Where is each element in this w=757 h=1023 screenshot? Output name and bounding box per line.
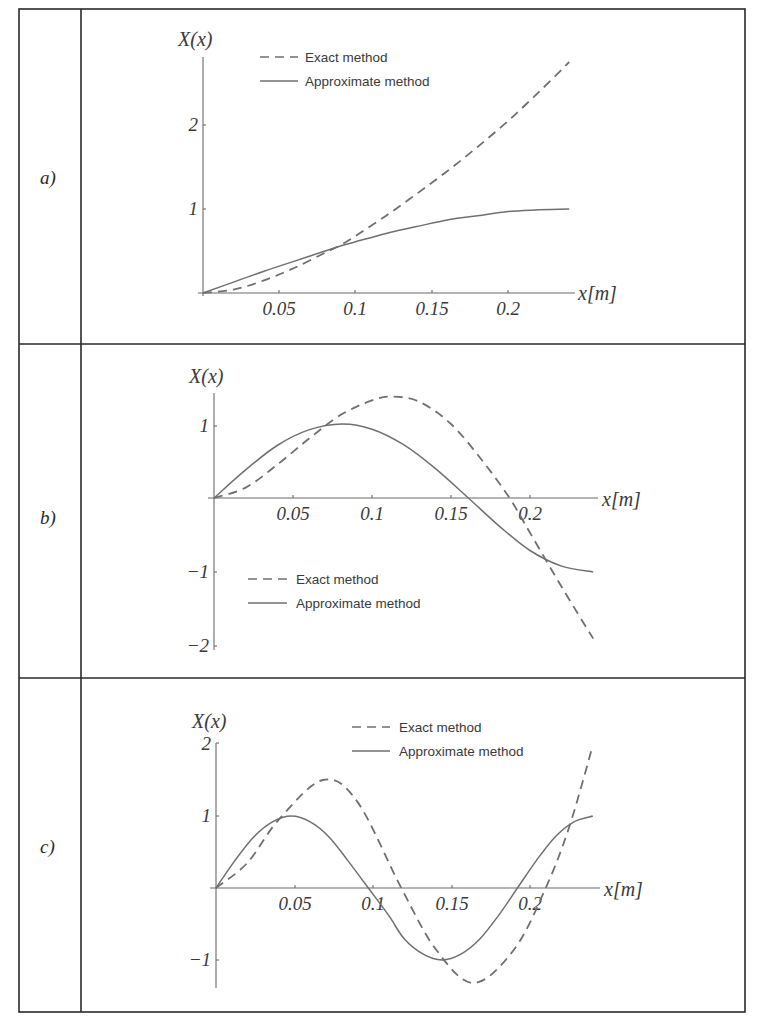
chart-b-x-title: x[m] (601, 488, 641, 510)
chart-c-x-tick-label: 0.2 (518, 893, 542, 914)
chart-b-y-title: X(x) (188, 365, 224, 388)
chart-a-y-tick-label: 2 (189, 114, 199, 135)
row-label-a: a) (40, 167, 56, 189)
chart-c-axes (210, 743, 600, 988)
chart-b-x-tick-label: 0.05 (276, 503, 309, 524)
chart-a-x-tick-label: 0.1 (343, 298, 367, 319)
chart-b-y-tick-label: −2 (187, 635, 210, 656)
legend-approx-label: Approximate method (399, 744, 524, 759)
chart-a-x-title: x[m] (577, 282, 617, 304)
chart-c-x-title: x[m] (603, 878, 643, 900)
chart-a-exact-curve (203, 62, 569, 293)
chart-a-axes (198, 57, 575, 296)
legend-approx-label: Approximate method (296, 596, 421, 611)
figure-table: a) b) c) X(x) x[m] 0.05 0.1 0.15 0.2 1 2… (0, 0, 757, 1023)
chart-a-y-title: X(x) (177, 28, 213, 51)
chart-c-y-title: X(x) (191, 710, 227, 733)
chart-a-x-tick-label: 0.05 (262, 298, 295, 319)
row-label-c: c) (40, 836, 55, 858)
chart-b-y-tick-label: 1 (200, 415, 210, 436)
chart-c-y-tick-label: −1 (189, 949, 211, 970)
chart-a-x-tick-label: 0.15 (415, 298, 448, 319)
chart-c-y-tick-label: 1 (202, 805, 212, 826)
chart-c-x-tick-label: 0.1 (361, 893, 385, 914)
chart-c: X(x) x[m] 0.05 0.1 0.15 0.2 2 1 −1 Exact… (189, 710, 643, 988)
chart-a: X(x) x[m] 0.05 0.1 0.15 0.2 1 2 Exact me… (177, 28, 617, 319)
chart-b-legend: Exact method Approximate method (248, 572, 421, 611)
chart-a-legend: Exact method Approximate method (260, 50, 430, 89)
legend-approx-label: Approximate method (305, 74, 430, 89)
chart-a-y-tick-label: 1 (189, 198, 199, 219)
legend-exact-label: Exact method (296, 572, 379, 587)
chart-c-x-tick-label: 0.15 (435, 893, 468, 914)
chart-a-x-tick-label: 0.2 (496, 298, 520, 319)
chart-b-x-tick-label: 0.15 (434, 503, 467, 524)
chart-b-y-tick-label: −1 (187, 561, 209, 582)
legend-exact-label: Exact method (305, 50, 388, 65)
chart-b-x-tick-label: 0.2 (518, 503, 542, 524)
row-label-b: b) (40, 507, 56, 529)
chart-c-exact-curve (216, 745, 593, 983)
chart-c-x-tick-label: 0.05 (278, 893, 311, 914)
chart-c-y-tick-label: 2 (202, 733, 212, 754)
chart-b-x-tick-label: 0.1 (360, 503, 384, 524)
chart-c-legend: Exact method Approximate method (352, 720, 524, 759)
chart-b: X(x) x[m] 0.05 0.1 0.15 0.2 1 −1 −2 Exac… (187, 365, 641, 656)
legend-exact-label: Exact method (399, 720, 482, 735)
chart-a-approx-curve (203, 209, 569, 293)
